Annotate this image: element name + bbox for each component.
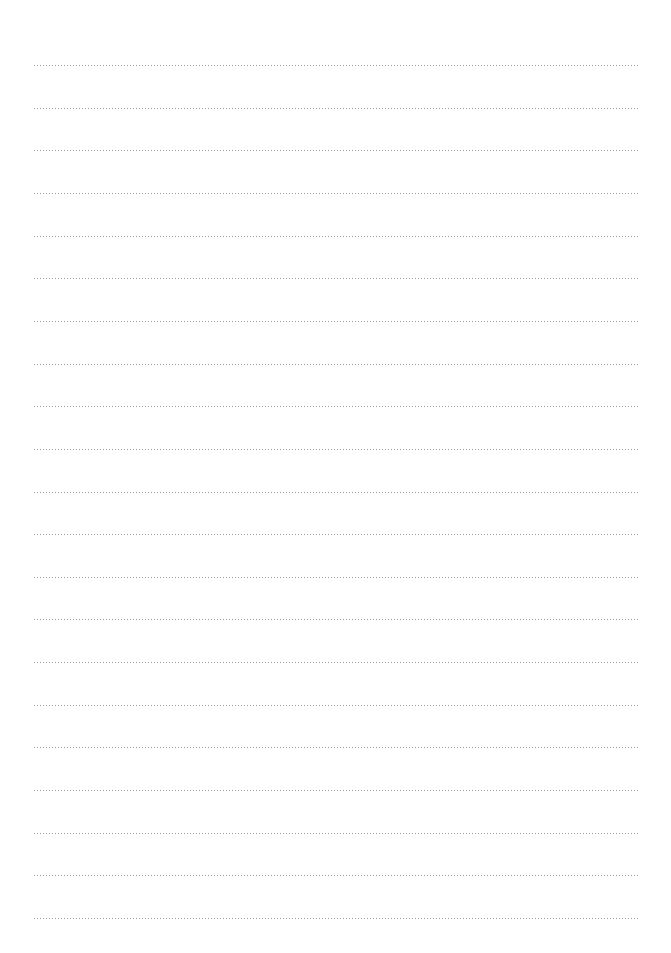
dotted-writing-line [33, 875, 639, 876]
dotted-writing-line [33, 619, 639, 620]
dotted-writing-line [33, 833, 639, 834]
dotted-writing-line [33, 662, 639, 663]
dotted-writing-line [33, 193, 639, 194]
dotted-writing-line [33, 278, 639, 279]
dotted-writing-line [33, 406, 639, 407]
dotted-writing-line [33, 108, 639, 109]
dotted-writing-line [33, 577, 639, 578]
dotted-writing-line [33, 534, 639, 535]
dotted-writing-line [33, 321, 639, 322]
dotted-writing-line [33, 747, 639, 748]
dotted-writing-line [33, 449, 639, 450]
dotted-writing-line [33, 236, 639, 237]
dotted-writing-line [33, 705, 639, 706]
dotted-writing-line [33, 65, 639, 66]
dotted-writing-line [33, 790, 639, 791]
dotted-writing-line [33, 150, 639, 151]
dotted-writing-line [33, 364, 639, 365]
lined-paper-page [0, 0, 671, 953]
dotted-writing-line [33, 918, 639, 919]
dotted-writing-line [33, 492, 639, 493]
